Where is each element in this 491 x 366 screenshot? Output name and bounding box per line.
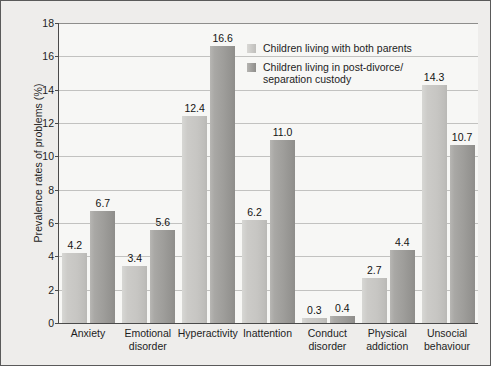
y-axis-tick-label: 2 — [48, 284, 54, 296]
y-axis-tick-mark — [55, 90, 59, 91]
x-axis-label: Physicaladdiction — [357, 327, 417, 352]
y-axis-tick-mark — [55, 123, 59, 124]
bar-group: 12.416.6 — [179, 23, 239, 323]
y-axis-tick-label: 14 — [42, 84, 54, 96]
legend-item-post-divorce: Children living in post-divorce/ separat… — [247, 61, 479, 86]
bar: 0.3 — [302, 318, 327, 323]
x-axis-label-line: Conduct — [308, 327, 347, 339]
bar: 6.7 — [90, 211, 115, 323]
legend-label: Children living with both parents — [263, 42, 412, 55]
bar-value-label: 0.3 — [307, 304, 322, 316]
bar: 16.6 — [210, 46, 235, 323]
bar-value-label: 6.7 — [96, 197, 111, 209]
bar: 2.7 — [362, 278, 387, 323]
y-axis-tick-mark — [55, 290, 59, 291]
bar-value-label: 4.2 — [68, 239, 83, 251]
bar: 0.4 — [330, 316, 355, 323]
bar-wrapper: 3.4 — [122, 23, 147, 323]
legend-label: Children living in post-divorce/ separat… — [263, 61, 403, 86]
bar-value-label: 11.0 — [273, 126, 293, 138]
bar-group: 4.26.7 — [59, 23, 119, 323]
y-axis-tick-label: 6 — [48, 217, 54, 229]
bar: 10.7 — [450, 145, 475, 323]
bar-value-label: 12.4 — [184, 102, 204, 114]
y-axis-tick-label: 0 — [48, 317, 54, 329]
y-axis-tick-mark — [55, 223, 59, 224]
bar-group: 3.45.6 — [119, 23, 179, 323]
bar-wrapper: 16.6 — [210, 23, 235, 323]
y-axis-tick-label: 10 — [42, 150, 54, 162]
y-axis-tick-label: 4 — [48, 250, 54, 262]
bar-value-label: 3.4 — [127, 252, 142, 264]
bar: 4.4 — [390, 250, 415, 323]
bar: 4.2 — [62, 253, 87, 323]
bar-value-label: 0.4 — [335, 302, 350, 314]
bar-chart: Prevalence rates of problems (%) 4.26.73… — [0, 0, 491, 366]
legend-swatch-icon — [247, 44, 256, 53]
bar-value-label: 4.4 — [395, 236, 410, 248]
x-axis-label: Conductdisorder — [297, 327, 357, 352]
legend-swatch-icon — [247, 63, 256, 72]
bar: 6.2 — [242, 220, 267, 323]
y-axis-tick-label: 8 — [48, 184, 54, 196]
legend: Children living with both parents Childr… — [247, 42, 479, 92]
x-axis-label-line: addiction — [366, 340, 408, 352]
y-axis-tick-mark — [55, 256, 59, 257]
y-axis-tick-mark — [55, 323, 59, 324]
y-axis-tick-mark — [55, 56, 59, 57]
x-axis-label-line: Inattention — [243, 327, 292, 339]
bar: 12.4 — [182, 116, 207, 323]
y-axis-tick-mark — [55, 156, 59, 157]
x-axis-label: Hyperactivity — [178, 327, 238, 340]
x-axis-label: Anxiety — [58, 327, 118, 340]
x-axis-label-line: Hyperactivity — [178, 327, 238, 339]
bar-value-label: 5.6 — [155, 216, 170, 228]
bar-value-label: 16.6 — [212, 32, 232, 44]
bar-wrapper: 5.6 — [150, 23, 175, 323]
x-axis-label-line: Emotional — [124, 327, 171, 339]
x-axis-label-line: Anxiety — [71, 327, 105, 339]
y-axis-tick-label: 18 — [42, 17, 54, 29]
bar-value-label: 2.7 — [367, 264, 382, 276]
x-axis-label-line: disorder — [308, 340, 346, 352]
bar-wrapper: 4.2 — [62, 23, 87, 323]
legend-label-line-2: separation custody — [263, 73, 351, 85]
y-axis-tick-mark — [55, 23, 59, 24]
x-axis-label: Emotionaldisorder — [118, 327, 178, 352]
x-axis-label: Unsocialbehaviour — [417, 327, 477, 352]
x-axis-label-line: Physical — [368, 327, 407, 339]
y-axis-tick-label: 16 — [42, 50, 54, 62]
bar: 14.3 — [422, 85, 447, 323]
bar: 5.6 — [150, 230, 175, 323]
legend-label-line-1: Children living in post-divorce/ — [263, 61, 403, 73]
bar-wrapper: 12.4 — [182, 23, 207, 323]
bar: 11.0 — [270, 140, 295, 323]
bar: 3.4 — [122, 266, 147, 323]
x-axis-labels: AnxietyEmotionaldisorderHyperactivityIna… — [58, 327, 477, 365]
x-axis-label-line: Unsocial — [427, 327, 467, 339]
x-axis-label-line: behaviour — [424, 340, 470, 352]
legend-item-both-parents: Children living with both parents — [247, 42, 479, 55]
bar-wrapper: 6.7 — [90, 23, 115, 323]
x-axis-label-line: disorder — [129, 340, 167, 352]
y-axis-tick-mark — [55, 190, 59, 191]
x-axis-label: Inattention — [238, 327, 298, 340]
bar-value-label: 6.2 — [247, 206, 262, 218]
y-axis-tick-label: 12 — [42, 117, 54, 129]
y-axis-title: Prevalence rates of problems (%) — [32, 48, 44, 278]
bar-value-label: 10.7 — [452, 131, 472, 143]
